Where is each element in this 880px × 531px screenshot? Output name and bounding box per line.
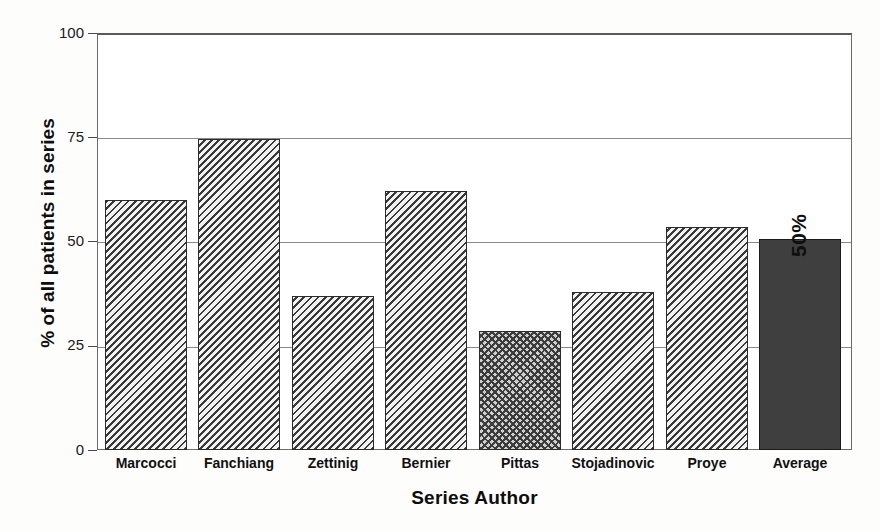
x-tick-label-bernier: Bernier xyxy=(377,455,475,471)
y-tick-mark-50 xyxy=(88,241,97,242)
bar-bernier xyxy=(385,191,467,450)
bar-chart: % of all patients in series 100 75 50 25… xyxy=(0,0,880,531)
x-tick-label-stojadinovic: Stojadinovic xyxy=(557,455,669,471)
bar-marcocci xyxy=(105,200,187,450)
x-axis-tick-labels: Marcocci Fanchiang Zettinig Bernier Pitt… xyxy=(97,455,852,479)
x-axis-title: Series Author xyxy=(97,487,852,509)
bars-layer: 50% xyxy=(97,33,852,450)
y-tick-mark-75 xyxy=(88,137,97,138)
y-tick-mark-25 xyxy=(88,346,97,347)
y-axis-tick-labels: 100 75 50 25 0 xyxy=(20,0,84,531)
y-tick-mark-100 xyxy=(88,33,97,34)
bar-zettinig xyxy=(292,296,374,450)
y-tick-label-0: 0 xyxy=(42,441,84,458)
x-tick-label-pittas: Pittas xyxy=(471,455,569,471)
bar-average xyxy=(759,239,841,450)
x-tick-label-marcocci: Marcocci xyxy=(97,455,195,471)
bar-stojadinovic xyxy=(572,292,654,450)
y-tick-mark-0 xyxy=(88,450,97,451)
y-tick-label-25: 25 xyxy=(42,336,84,353)
bar-proye xyxy=(666,227,748,450)
x-tick-label-zettinig: Zettinig xyxy=(284,455,382,471)
bar-pittas xyxy=(479,331,561,450)
y-tick-label-75: 75 xyxy=(42,128,84,145)
y-tick-label-50: 50 xyxy=(42,232,84,249)
x-tick-label-average: Average xyxy=(751,455,849,471)
x-tick-label-proye: Proye xyxy=(658,455,756,471)
x-tick-label-fanchiang: Fanchiang xyxy=(190,455,288,471)
y-tick-label-100: 100 xyxy=(42,24,84,41)
bar-fanchiang xyxy=(198,139,280,450)
average-value-label: 50% xyxy=(787,213,811,257)
